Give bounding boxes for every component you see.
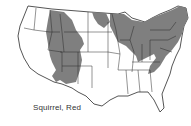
map-caption: Squirrel, Red: [33, 103, 81, 112]
us-map: [0, 0, 191, 126]
